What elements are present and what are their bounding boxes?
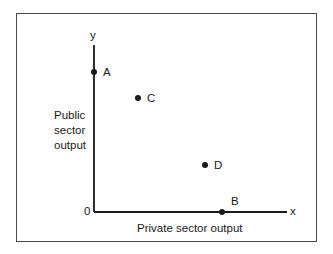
y-axis-title: Public sector output (54, 108, 86, 153)
x-axis-title: Private sector output (137, 223, 242, 235)
x-axis-label: x (290, 206, 296, 218)
y-axis-label: y (90, 30, 96, 42)
axes-and-points (0, 0, 333, 254)
point-c-dot (135, 95, 141, 101)
y-axis-title-line-1: Public (54, 108, 86, 123)
point-c-label: C (147, 93, 155, 105)
origin-label: 0 (84, 206, 90, 218)
point-b-dot (219, 209, 225, 215)
y-axis-title-line-3: output (54, 138, 86, 153)
point-d-label: D (214, 160, 222, 172)
point-d-dot (202, 162, 208, 168)
point-b-label: B (231, 196, 239, 208)
point-a-label: A (103, 67, 111, 79)
y-axis-title-line-2: sector (54, 123, 86, 138)
point-a-dot (91, 69, 97, 75)
